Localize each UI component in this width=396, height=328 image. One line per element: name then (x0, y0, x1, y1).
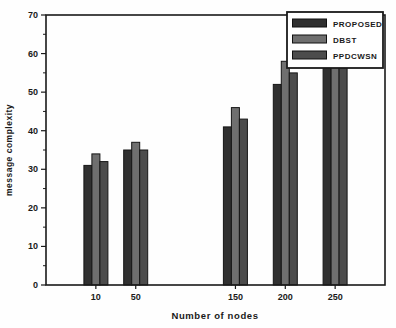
legend-label-dbst: DBST (333, 36, 357, 45)
bar-ppdcwsn-10 (100, 162, 108, 285)
y-tick-label: 60 (28, 49, 38, 59)
bar-dbst-150 (231, 108, 239, 285)
x-axis-title: Number of nodes (171, 310, 258, 321)
bar-dbst-10 (92, 154, 100, 285)
y-tick-label: 70 (28, 10, 38, 20)
y-tick-label: 40 (28, 126, 38, 136)
x-tick-label: 200 (278, 292, 293, 302)
bar-proposed-150 (223, 127, 231, 285)
bar-ppdcwsn-150 (239, 119, 247, 285)
bar-chart-figure: 0102030405060701050150200250 message com… (0, 0, 396, 328)
y-axis-title: message complexity (4, 104, 14, 196)
bar-dbst-250 (331, 38, 339, 285)
legend-swatch-dbst (293, 35, 327, 43)
y-tick-label: 0 (33, 280, 38, 290)
x-tick-label: 150 (228, 292, 243, 302)
legend: PROPOSEDDBSTPPDCWSN (287, 12, 383, 68)
bar-ppdcwsn-50 (140, 150, 148, 285)
chart-canvas: 0102030405060701050150200250 message com… (0, 0, 396, 328)
x-tick-label: 50 (131, 292, 141, 302)
y-tick-label: 20 (28, 203, 38, 213)
bar-ppdcwsn-250 (339, 42, 347, 285)
legend-label-proposed: PROPOSED (333, 20, 382, 29)
bar-dbst-50 (132, 142, 140, 285)
bar-ppdcwsn-200 (289, 73, 297, 285)
bar-proposed-200 (273, 84, 281, 285)
legend-swatch-ppdcwsn (293, 51, 327, 59)
bar-dbst-200 (281, 61, 289, 285)
bar-proposed-50 (124, 150, 132, 285)
y-tick-label: 10 (28, 241, 38, 251)
legend-swatch-proposed (293, 19, 327, 27)
bars-layer (84, 38, 347, 285)
x-tick-label: 250 (328, 292, 343, 302)
bar-proposed-10 (84, 165, 92, 285)
y-tick-label: 50 (28, 87, 38, 97)
bar-proposed-250 (323, 46, 331, 285)
legend-label-ppdcwsn: PPDCWSN (333, 52, 377, 61)
y-tick-label: 30 (28, 164, 38, 174)
x-tick-label: 10 (91, 292, 101, 302)
